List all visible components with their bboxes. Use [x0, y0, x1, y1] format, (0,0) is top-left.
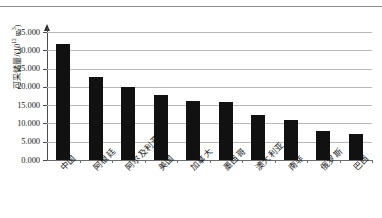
- bar: [56, 44, 70, 160]
- y-axis-tick-label: 25.000: [0, 64, 40, 73]
- gridline: [47, 50, 372, 51]
- x-axis-tick: [177, 160, 178, 163]
- x-axis-tick: [210, 160, 211, 163]
- x-axis-tick: [372, 160, 373, 163]
- x-axis-tick: [112, 160, 113, 163]
- gridline: [47, 32, 372, 33]
- x-axis-tick: [145, 160, 146, 163]
- page-divider-rule: [0, 6, 382, 7]
- y-axis-tick-label: 15.000: [0, 101, 40, 110]
- bar: [219, 102, 233, 160]
- x-axis-tick: [80, 160, 81, 163]
- bar: [186, 101, 200, 160]
- x-axis-tick: [275, 160, 276, 163]
- y-axis-tick-label: 5.000: [0, 137, 40, 146]
- x-axis-tick: [340, 160, 341, 163]
- y-axis-tick-label: 30.000: [0, 46, 40, 55]
- bar: [251, 115, 265, 160]
- plot-area: [47, 32, 372, 160]
- bar: [121, 87, 135, 160]
- y-axis-tick-label: 10.000: [0, 119, 40, 128]
- bar: [89, 77, 103, 160]
- x-axis-tick: [307, 160, 308, 163]
- y-axis-tick-label: 35.000: [0, 28, 40, 37]
- bar: [154, 95, 168, 160]
- gridline: [47, 69, 372, 70]
- y-axis-tick-label: 0.000: [0, 156, 40, 165]
- y-axis-tick-label: 20.000: [0, 82, 40, 91]
- x-axis-tick: [242, 160, 243, 163]
- y-axis-title-exponent: 12: [11, 38, 17, 44]
- y-axis-title: 可采储量/(1012 m3): [13, 2, 22, 112]
- figure-bar-chart: 可采储量/(1012 m3) 0.0005.00010.00015.00020.…: [0, 0, 382, 218]
